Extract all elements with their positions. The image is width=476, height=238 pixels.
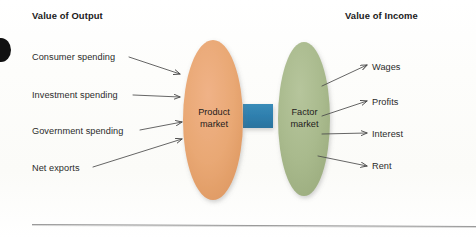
circular-flow-diagram: Value of Output Value of Income Consumer… — [0, 0, 476, 238]
product-market-label-line1: Product — [198, 107, 230, 117]
label-net-exports: Net exports — [32, 163, 80, 173]
page-edge-mark — [0, 38, 11, 62]
product-market-label-line2: market — [200, 119, 228, 129]
label-rent: Rent — [372, 161, 392, 171]
market-connector — [243, 104, 273, 128]
label-government-spending: Government spending — [32, 126, 123, 136]
inflow-arrows — [93, 57, 182, 167]
label-wages: Wages — [372, 62, 401, 72]
label-consumer-spending: Consumer spending — [32, 52, 115, 62]
factor-market-label-line1: Factor — [291, 107, 317, 117]
arrow-investment-spending — [133, 95, 180, 97]
product-market-label: Product market — [184, 107, 244, 130]
heading-value-of-output: Value of Output — [32, 10, 103, 21]
bottom-rule — [32, 225, 476, 227]
label-investment-spending: Investment spending — [32, 90, 118, 100]
label-profits: Profits — [372, 97, 398, 107]
factor-market-label: Factor market — [278, 107, 331, 130]
arrow-government-spending — [140, 122, 182, 130]
arrow-consumer-spending — [129, 57, 180, 74]
factor-market-label-line2: market — [290, 119, 318, 129]
label-interest: Interest — [372, 129, 403, 139]
heading-value-of-income: Value of Income — [345, 10, 418, 21]
arrow-wages — [322, 65, 367, 86]
arrow-net-exports — [93, 139, 182, 167]
